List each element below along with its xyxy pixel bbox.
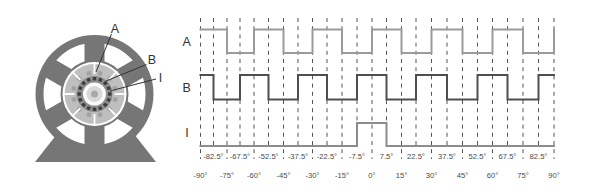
minor-angle-label: -7.5°	[349, 152, 365, 161]
motor-callout-b-label: B	[148, 53, 156, 67]
minor-angle-label: -22.5°	[317, 152, 337, 161]
signal-a-waveform	[201, 30, 555, 54]
minor-angle-label: 7.5°	[380, 152, 394, 161]
minor-angle-label: -67.5°	[230, 152, 250, 161]
code-tooth	[108, 92, 111, 95]
code-tooth	[93, 77, 96, 80]
signal-b-label: B	[183, 81, 191, 95]
major-angle-label: -90°	[193, 171, 207, 180]
motor-callout-a-label: A	[111, 22, 120, 36]
minor-angle-label: -82.5°	[203, 152, 223, 161]
minor-angle-label: 37.5°	[438, 152, 456, 161]
major-angle-label: -45°	[276, 171, 290, 180]
major-angle-label: 30°	[426, 171, 437, 180]
major-angle-label: 15°	[396, 171, 407, 180]
housing-spoke	[85, 125, 105, 147]
motor-callout-i-label: I	[159, 71, 162, 85]
major-angle-label: -30°	[305, 171, 319, 180]
major-angle-label: 45°	[457, 171, 468, 180]
encoder-figure: A B I -82.5°-67.5°-52.5°-37.5°-22.5°-7.5…	[0, 0, 594, 196]
motor-encoder-illustration	[35, 34, 156, 162]
major-angle-label: 0°	[368, 171, 375, 180]
major-angle-label: -60°	[247, 171, 261, 180]
minor-angle-label: 82.5°	[530, 152, 548, 161]
minor-angle-label: 22.5°	[407, 152, 425, 161]
shaft-center	[91, 91, 98, 98]
angle-axis-labels: -82.5°-67.5°-52.5°-37.5°-22.5°-7.5°7.5°2…	[193, 152, 559, 180]
code-tooth	[78, 92, 81, 95]
code-tooth	[93, 108, 96, 111]
major-angle-label: -75°	[220, 171, 234, 180]
timing-diagram: -82.5°-67.5°-52.5°-37.5°-22.5°-7.5°7.5°2…	[183, 18, 560, 180]
minor-angle-label: 67.5°	[499, 152, 517, 161]
minor-angle-label: 52.5°	[469, 152, 487, 161]
signal-a-label: A	[183, 35, 192, 49]
minor-angle-label: -52.5°	[258, 152, 278, 161]
major-angle-label: 75°	[517, 171, 528, 180]
minor-angle-label: -37.5°	[288, 152, 308, 161]
major-angle-label: -15°	[335, 171, 349, 180]
major-angle-label: 90°	[548, 171, 559, 180]
major-angle-label: 60°	[487, 171, 498, 180]
signal-i-label: I	[185, 126, 188, 140]
